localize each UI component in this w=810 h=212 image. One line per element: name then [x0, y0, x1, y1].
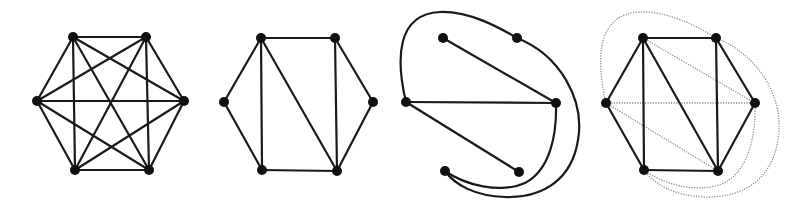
panel-planar-subgraph [219, 33, 378, 176]
edge [261, 38, 262, 170]
dotted-curved-edge [644, 103, 755, 188]
panel-overlay-graph [601, 12, 780, 197]
edge [443, 38, 556, 103]
panel-k6-complete-graph [32, 32, 189, 175]
vertex [32, 96, 42, 106]
edge [644, 170, 718, 171]
vertex [440, 166, 450, 176]
vertex [332, 166, 342, 176]
edge [406, 102, 519, 172]
vertex [713, 166, 723, 176]
edge [262, 170, 337, 171]
curved-edge [401, 12, 517, 102]
vertex [68, 32, 78, 42]
vertex [639, 165, 649, 175]
edge [718, 103, 755, 171]
edge [37, 101, 75, 170]
vertex [257, 165, 267, 175]
dotted-curved-edge [644, 38, 779, 197]
vertex [750, 98, 760, 108]
vertex [638, 33, 648, 43]
edge [261, 38, 337, 171]
edge [335, 38, 373, 102]
edge [606, 103, 644, 170]
edge [406, 102, 556, 103]
vertex [401, 97, 411, 107]
edge [146, 37, 149, 170]
vertex [219, 97, 229, 107]
panel-complement-graph [401, 12, 580, 197]
vertex [330, 33, 340, 43]
edge [146, 37, 184, 101]
vertex [601, 98, 611, 108]
vertex [512, 33, 522, 43]
dotted-edge [606, 103, 718, 171]
curved-edge [445, 103, 556, 188]
edge [716, 38, 718, 171]
vertex [368, 97, 378, 107]
vertex [70, 165, 80, 175]
edge [643, 38, 644, 170]
vertex [711, 33, 721, 43]
edge [224, 38, 261, 102]
edge [337, 102, 373, 171]
edge [335, 38, 337, 171]
dotted-curved-edge [601, 12, 716, 103]
curved-edge [445, 38, 579, 197]
vertex [438, 33, 448, 43]
vertex [141, 32, 151, 42]
edge [73, 37, 75, 170]
edge [224, 102, 262, 170]
vertex [514, 167, 524, 177]
dotted-edge [643, 38, 755, 103]
vertex [256, 33, 266, 43]
graph-figure [0, 0, 810, 212]
vertex [179, 96, 189, 106]
edge [606, 38, 643, 103]
vertex [144, 165, 154, 175]
edge [643, 38, 718, 171]
vertex [551, 98, 561, 108]
